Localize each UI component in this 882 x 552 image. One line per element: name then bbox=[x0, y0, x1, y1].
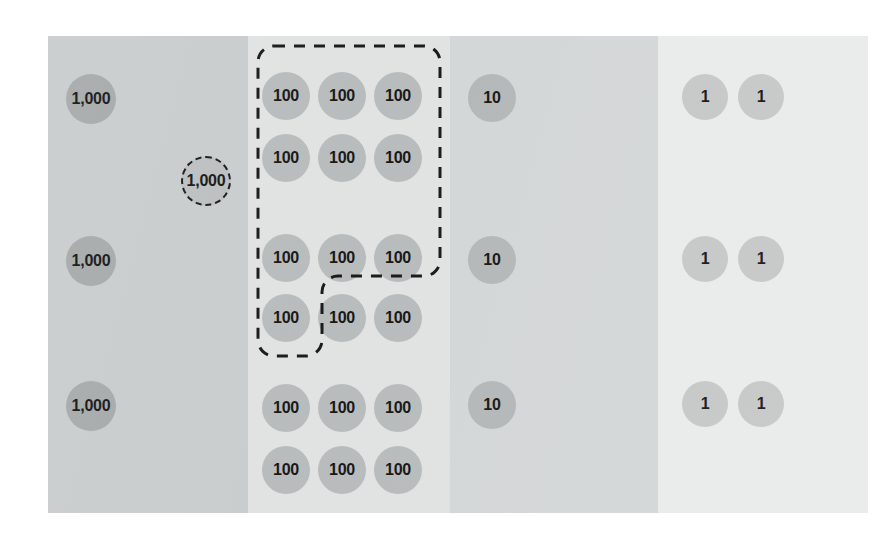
disc-label: 1 bbox=[701, 251, 710, 267]
disc-hundred-r3c1[interactable]: 100 bbox=[262, 234, 310, 282]
disc-hundred-r3c3[interactable]: 100 bbox=[374, 234, 422, 282]
disc-label: 1,000 bbox=[71, 91, 110, 107]
disc-hundred-r5c3[interactable]: 100 bbox=[374, 384, 422, 432]
disc-thousand-2[interactable]: 1,000 bbox=[66, 236, 116, 286]
disc-label: 100 bbox=[273, 462, 299, 478]
disc-hundred-r2c3[interactable]: 100 bbox=[374, 134, 422, 182]
disc-hundred-r2c1[interactable]: 100 bbox=[262, 134, 310, 182]
disc-thousand-3[interactable]: 1,000 bbox=[66, 381, 116, 431]
disc-label: 100 bbox=[273, 250, 299, 266]
place-value-column-tens[interactable]: 10 10 10 bbox=[450, 36, 658, 513]
disc-label: 100 bbox=[329, 462, 355, 478]
disc-label: 100 bbox=[385, 150, 411, 166]
disc-ten-1[interactable]: 10 bbox=[468, 74, 516, 122]
disc-hundred-r6c2[interactable]: 100 bbox=[318, 446, 366, 494]
disc-one-r1c1[interactable]: 1 bbox=[682, 74, 728, 120]
disc-hundred-r1c2[interactable]: 100 bbox=[318, 72, 366, 120]
disc-label: 100 bbox=[385, 250, 411, 266]
disc-one-r3c1[interactable]: 1 bbox=[682, 381, 728, 427]
disc-label: 100 bbox=[273, 150, 299, 166]
disc-label: 100 bbox=[385, 310, 411, 326]
disc-hundred-r6c3[interactable]: 100 bbox=[374, 446, 422, 494]
disc-label: 1 bbox=[701, 396, 710, 412]
disc-label: 100 bbox=[329, 400, 355, 416]
disc-hundred-r1c3[interactable]: 100 bbox=[374, 72, 422, 120]
place-value-board: 1,000 1,000 1,000 1,000 100 100 bbox=[48, 36, 868, 513]
disc-one-r1c2[interactable]: 1 bbox=[738, 74, 784, 120]
disc-thousand-1[interactable]: 1,000 bbox=[66, 74, 116, 124]
disc-label: 1 bbox=[757, 251, 766, 267]
disc-label: 100 bbox=[329, 250, 355, 266]
disc-hundred-r4c1[interactable]: 100 bbox=[262, 294, 310, 342]
disc-label: 100 bbox=[329, 150, 355, 166]
disc-label: 1 bbox=[701, 89, 710, 105]
disc-one-r2c2[interactable]: 1 bbox=[738, 236, 784, 282]
disc-label: 100 bbox=[329, 88, 355, 104]
disc-one-r3c2[interactable]: 1 bbox=[738, 381, 784, 427]
place-value-column-thousands[interactable]: 1,000 1,000 1,000 1,000 bbox=[48, 36, 248, 513]
hundreds-disc-grid: 100 100 100 100 100 100 100 10 bbox=[248, 36, 450, 513]
disc-hundred-r6c1[interactable]: 100 bbox=[262, 446, 310, 494]
disc-hundred-r1c1[interactable]: 100 bbox=[262, 72, 310, 120]
disc-one-r2c1[interactable]: 1 bbox=[682, 236, 728, 282]
place-value-column-ones[interactable]: 1 1 1 1 1 1 bbox=[658, 36, 868, 513]
disc-label: 100 bbox=[385, 462, 411, 478]
disc-label: 1,000 bbox=[186, 173, 225, 189]
place-value-column-hundreds[interactable]: 100 100 100 100 100 100 100 10 bbox=[248, 36, 450, 513]
disc-label: 1,000 bbox=[71, 398, 110, 414]
disc-hundred-r3c2[interactable]: 100 bbox=[318, 234, 366, 282]
new-thousand-disc[interactable]: 1,000 bbox=[181, 156, 231, 206]
disc-label: 100 bbox=[385, 400, 411, 416]
disc-label: 100 bbox=[273, 88, 299, 104]
disc-hundred-r5c2[interactable]: 100 bbox=[318, 384, 366, 432]
disc-label: 1,000 bbox=[71, 253, 110, 269]
disc-hundred-r2c2[interactable]: 100 bbox=[318, 134, 366, 182]
disc-ten-3[interactable]: 10 bbox=[468, 381, 516, 429]
disc-hundred-r5c1[interactable]: 100 bbox=[262, 384, 310, 432]
disc-label: 100 bbox=[273, 400, 299, 416]
disc-ten-2[interactable]: 10 bbox=[468, 236, 516, 284]
disc-label: 1 bbox=[757, 396, 766, 412]
disc-label: 100 bbox=[273, 310, 299, 326]
disc-label: 10 bbox=[483, 397, 500, 413]
disc-label: 1 bbox=[757, 89, 766, 105]
disc-label: 100 bbox=[385, 88, 411, 104]
disc-label: 10 bbox=[483, 252, 500, 268]
disc-hundred-r4c3[interactable]: 100 bbox=[374, 294, 422, 342]
disc-hundred-r4c2[interactable]: 100 bbox=[318, 294, 366, 342]
disc-label: 10 bbox=[483, 90, 500, 106]
disc-label: 100 bbox=[329, 310, 355, 326]
